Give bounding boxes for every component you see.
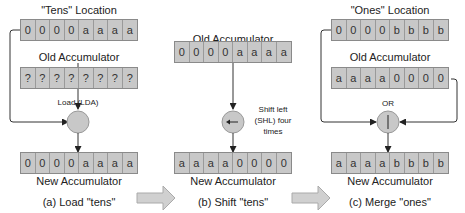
bit-cell: a: [94, 20, 109, 40]
new-accumulator-label: New Accumulator: [331, 175, 449, 187]
bit-cell: 0: [361, 20, 376, 40]
bit-cell: 0: [347, 20, 362, 40]
bit-cell: a: [79, 20, 94, 40]
bit-cell: ?: [94, 68, 109, 88]
new-accumulator-label: New Accumulator: [20, 175, 138, 187]
old-accumulator-register: a a a a 0 0 0 0: [331, 67, 449, 89]
bit-cell: ?: [123, 68, 138, 88]
block-arrow-a-to-b: [137, 186, 175, 210]
block-arrow-b-to-c: [292, 186, 330, 210]
bit-cell: 0: [50, 20, 65, 40]
bit-cell: 0: [419, 68, 434, 88]
tens-location-register: 0 0 0 0 a a a a: [20, 19, 138, 41]
bit-cell: a: [233, 42, 248, 62]
bit-cell: a: [376, 68, 391, 88]
caption-b: (b) Shift "tens": [174, 196, 292, 208]
load-circle-icon: [67, 111, 89, 133]
old-accumulator-label: Old Accumulator: [20, 51, 138, 63]
bit-cell: 0: [262, 153, 277, 173]
bit-cell: ?: [50, 68, 65, 88]
new-accumulator-register: 0 0 0 0 a a a a: [20, 152, 138, 174]
bit-cell: 0: [36, 20, 51, 40]
tens-location-label: "Tens" Location: [20, 4, 138, 16]
bit-cell: a: [277, 42, 292, 62]
load-op-label: Load (LDA): [38, 97, 118, 108]
bit-cell: a: [347, 68, 362, 88]
bit-cell: 0: [277, 153, 292, 173]
bit-cell: 0: [36, 153, 51, 173]
bit-cell: 0: [204, 42, 219, 62]
bit-cell: a: [79, 153, 94, 173]
bit-cell: 0: [219, 42, 234, 62]
bit-cell: 0: [65, 20, 80, 40]
bit-cell: ?: [79, 68, 94, 88]
bit-cell: 0: [332, 20, 347, 40]
bit-cell: a: [175, 153, 190, 173]
new-accumulator-label: New Accumulator: [174, 175, 292, 187]
bit-cell: a: [361, 68, 376, 88]
bit-cell: 0: [390, 68, 405, 88]
new-accumulator-register: a a a a b b b b: [331, 152, 449, 174]
bit-cell: 0: [233, 153, 248, 173]
bit-cell: a: [332, 153, 347, 173]
shift-op-label-line-1: Shift left: [248, 104, 298, 115]
bit-cell: b: [434, 153, 449, 173]
old-accumulator-register: 0 0 0 0 a a a a: [174, 41, 292, 63]
caption-c: (c) Merge "ones": [331, 196, 449, 208]
bit-cell: b: [390, 153, 405, 173]
bit-cell: 0: [50, 153, 65, 173]
bit-cell: a: [204, 153, 219, 173]
bit-cell: 0: [21, 153, 36, 173]
caption-a: (a) Load "tens": [20, 196, 138, 208]
ones-location-register: 0 0 0 0 b b b b: [331, 19, 449, 41]
new-accumulator-register: a a a a 0 0 0 0: [174, 152, 292, 174]
bit-cell: ?: [65, 68, 80, 88]
bit-cell: a: [108, 153, 123, 173]
shift-op-label-line-3: times: [248, 126, 298, 137]
bit-cell: a: [361, 153, 376, 173]
bit-cell: b: [390, 20, 405, 40]
old-accumulator-register: ? ? ? ? ? ? ? ?: [20, 67, 138, 89]
bit-cell: 0: [65, 153, 80, 173]
bit-cell: a: [123, 20, 138, 40]
bit-cell: a: [190, 153, 205, 173]
bit-cell: a: [347, 153, 362, 173]
bit-cell: 0: [434, 68, 449, 88]
old-accumulator-label: Old Accumulator: [331, 51, 449, 63]
bit-cell: 0: [175, 42, 190, 62]
bit-cell: a: [123, 153, 138, 173]
bit-cell: 0: [405, 68, 420, 88]
bit-cell: b: [405, 20, 420, 40]
bit-cell: ?: [108, 68, 123, 88]
bit-cell: b: [419, 20, 434, 40]
bit-cell: b: [419, 153, 434, 173]
bit-cell: a: [94, 153, 109, 173]
bit-cell: ?: [21, 68, 36, 88]
shift-op-label-line-2: (SHL) four: [248, 115, 298, 126]
bit-cell: a: [262, 42, 277, 62]
bit-cell: a: [376, 153, 391, 173]
bit-cell: 0: [248, 153, 263, 173]
ones-location-label: "Ones" Location: [331, 4, 449, 16]
bit-cell: b: [434, 20, 449, 40]
bit-cell: a: [332, 68, 347, 88]
bit-cell: b: [405, 153, 420, 173]
bit-cell: 0: [190, 42, 205, 62]
bit-cell: a: [248, 42, 263, 62]
bit-cell: 0: [376, 20, 391, 40]
bit-cell: a: [108, 20, 123, 40]
or-op-label: OR: [368, 98, 408, 109]
bit-cell: ?: [36, 68, 51, 88]
bit-cell: a: [219, 153, 234, 173]
bit-cell: 0: [21, 20, 36, 40]
